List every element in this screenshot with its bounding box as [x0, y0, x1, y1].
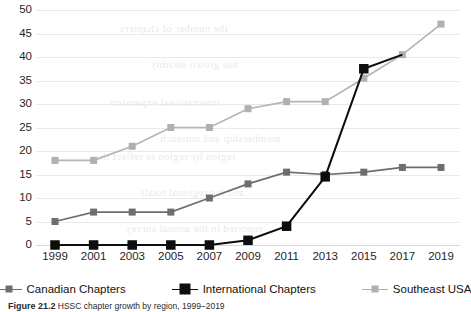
data-point-marker: [283, 169, 290, 176]
series-line: [55, 167, 441, 221]
data-point-marker: [167, 209, 174, 216]
data-point-marker: [245, 180, 252, 187]
y-axis-tick-labels: 05101520253035404550: [0, 10, 32, 245]
x-axis-tick-label: 2017: [390, 250, 416, 262]
y-axis-tick-label: 25: [2, 122, 32, 134]
y-axis-tick-label: 20: [2, 145, 32, 157]
x-axis-tick-label: 2015: [351, 250, 377, 262]
data-point-marker: [52, 157, 59, 164]
data-point-marker: [167, 124, 174, 131]
figure-caption-text: Figure 21.2 HSSC chapter growth by regio…: [8, 301, 225, 311]
y-axis-tick-label: 40: [2, 51, 32, 63]
data-point-marker: [243, 236, 253, 246]
legend-item-label: Canadian Chapters: [27, 283, 126, 295]
legend-marker-icon: [172, 284, 198, 295]
x-axis-tick-label: 1999: [42, 250, 68, 262]
series-southeast-usa: [52, 21, 445, 164]
x-axis-tick-label: 2001: [81, 250, 107, 262]
series-international-chapters: [50, 64, 368, 250]
data-point-marker: [90, 157, 97, 164]
data-point-marker: [438, 21, 445, 28]
x-axis-tick-labels: 1999200120032005200720092011201320152017…: [36, 250, 460, 266]
y-axis-tick-label: 45: [2, 28, 32, 40]
data-point-marker: [206, 124, 213, 131]
x-axis-tick-label: 2007: [197, 250, 223, 262]
figure-caption-body: HSSC chapter growth by region, 1999–2019: [58, 301, 225, 311]
y-axis-tick-label: 15: [2, 169, 32, 181]
data-point-marker: [50, 240, 60, 250]
y-axis-tick-label: 10: [2, 192, 32, 204]
x-axis-tick-label: 2011: [274, 250, 299, 262]
legend-marker-icon: [362, 284, 388, 295]
data-point-marker: [438, 164, 445, 171]
legend-item-label: Southeast USA: [393, 283, 471, 295]
y-axis-tick-label: 35: [2, 75, 32, 87]
data-point-marker: [205, 240, 215, 250]
data-point-marker: [245, 105, 252, 112]
data-point-marker: [320, 172, 330, 182]
plot-area: [36, 10, 460, 245]
legend-item[interactable]: Southeast USA: [362, 283, 471, 295]
figure-number: 21.2: [38, 301, 56, 311]
data-point-marker: [127, 240, 137, 250]
data-point-marker: [129, 209, 136, 216]
x-axis-tick-label: 2005: [158, 250, 184, 262]
y-axis-tick-label: 50: [2, 4, 32, 16]
x-axis-tick-label: 2003: [119, 250, 145, 262]
data-point-marker: [206, 195, 213, 202]
data-point-marker: [360, 169, 367, 176]
x-axis-tick-label: 2013: [312, 250, 338, 262]
y-axis-tick-label: 0: [2, 239, 32, 251]
series-line: [55, 24, 441, 160]
data-point-marker: [282, 221, 292, 231]
figure-label: Figure: [8, 301, 36, 311]
data-point-marker: [166, 240, 176, 250]
data-point-marker: [52, 218, 59, 225]
data-point-marker: [89, 240, 99, 250]
chart-legend: Canadian ChaptersInternational ChaptersS…: [0, 281, 467, 297]
x-axis-tick-label: 2019: [428, 250, 454, 262]
data-point-marker: [322, 98, 329, 105]
data-point-marker: [129, 143, 136, 150]
data-point-marker: [283, 98, 290, 105]
data-point-marker: [90, 209, 97, 216]
chart-series-layer: [36, 10, 460, 245]
data-point-marker: [399, 164, 406, 171]
series-canadian-chapters: [52, 164, 445, 225]
x-axis-tick-label: 2009: [235, 250, 261, 262]
legend-marker-icon: [0, 284, 22, 295]
legend-item[interactable]: Canadian Chapters: [0, 283, 126, 295]
y-axis-tick-label: 5: [2, 216, 32, 228]
legend-item-label: International Chapters: [203, 283, 316, 295]
y-axis-tick-label: 30: [2, 98, 32, 110]
figure-caption: Figure 21.2 HSSC chapter growth by regio…: [8, 301, 408, 312]
legend-item[interactable]: International Chapters: [172, 283, 316, 295]
